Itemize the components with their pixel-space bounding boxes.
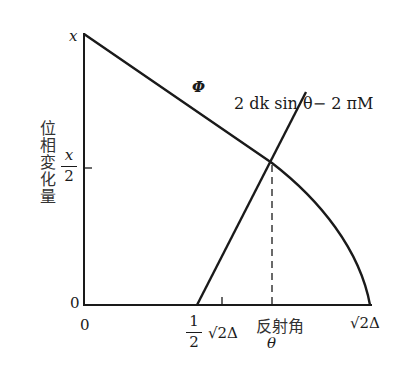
phi-label: Φ <box>192 80 205 95</box>
y-mid-fraction: x 2 <box>61 148 77 185</box>
y-axis-title: 位相変化量 <box>34 120 58 205</box>
x-theta-label: θ <box>267 336 276 351</box>
phi-curve <box>84 34 370 305</box>
x-half-root-label: √2Δ <box>208 326 238 341</box>
y-mid-denominator: 2 <box>64 169 74 185</box>
y-top-label: x <box>69 29 77 44</box>
y-mid-numerator: x <box>65 148 73 164</box>
x-half-denominator: 2 <box>189 335 199 351</box>
x-half-fraction: 1 2 <box>186 314 202 351</box>
x-zero-label: 0 <box>80 318 90 333</box>
y-zero-label: 0 <box>70 296 80 311</box>
x-axis-title: 反射角 <box>256 313 304 337</box>
line-formula-label: 2 dk sin θ− 2 πM <box>234 96 373 112</box>
x-end-label: √2Δ <box>350 316 380 331</box>
x-half-numerator: 1 <box>189 314 199 330</box>
